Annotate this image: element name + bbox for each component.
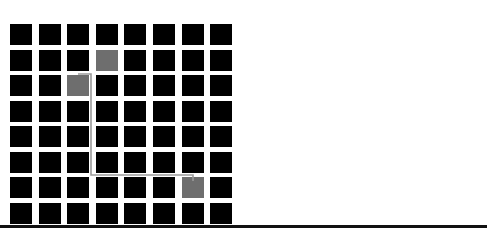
grid-cell bbox=[153, 75, 175, 96]
grid-cell bbox=[39, 203, 61, 224]
grid-cell bbox=[67, 24, 89, 45]
grid-cell bbox=[96, 101, 118, 122]
highlighted-cell bbox=[67, 75, 89, 96]
grid-cell bbox=[124, 101, 146, 122]
grid-cell bbox=[67, 126, 89, 147]
grid-cell bbox=[96, 152, 118, 173]
grid-cell bbox=[10, 101, 32, 122]
grid-cell bbox=[124, 126, 146, 147]
grid-cell bbox=[182, 75, 204, 96]
grid-cell bbox=[10, 24, 32, 45]
grid-cell bbox=[67, 101, 89, 122]
grid-cell bbox=[39, 50, 61, 71]
grid-cell bbox=[210, 177, 232, 198]
grid-cell bbox=[39, 101, 61, 122]
grid-cell bbox=[182, 152, 204, 173]
grid-cell bbox=[96, 126, 118, 147]
grid-cell bbox=[182, 126, 204, 147]
grid-cell bbox=[67, 50, 89, 71]
grid-cell bbox=[39, 177, 61, 198]
grid-cell bbox=[153, 50, 175, 71]
grid-cell bbox=[124, 177, 146, 198]
grid-cell bbox=[67, 177, 89, 198]
grid-cell bbox=[96, 177, 118, 198]
grid-cell bbox=[67, 203, 89, 224]
grid-cell bbox=[182, 203, 204, 224]
grid-cell bbox=[124, 24, 146, 45]
grid-cell bbox=[10, 126, 32, 147]
grid-cell bbox=[153, 24, 175, 45]
grid-cell bbox=[96, 203, 118, 224]
grid-cell bbox=[10, 152, 32, 173]
grid-cell bbox=[39, 126, 61, 147]
grid-cell bbox=[210, 75, 232, 96]
grid-cell bbox=[210, 152, 232, 173]
grid-cell bbox=[67, 152, 89, 173]
grid-cell bbox=[39, 75, 61, 96]
grid-cell bbox=[153, 126, 175, 147]
grid-cell bbox=[39, 24, 61, 45]
grid-cell bbox=[210, 24, 232, 45]
grid-cell bbox=[210, 203, 232, 224]
grid-cell bbox=[182, 24, 204, 45]
square-grid bbox=[0, 0, 487, 240]
grid-cell bbox=[124, 203, 146, 224]
grid-cell bbox=[96, 24, 118, 45]
highlighted-cell bbox=[182, 177, 204, 198]
grid-cell bbox=[124, 50, 146, 71]
grid-cell bbox=[10, 177, 32, 198]
grid-cell bbox=[124, 75, 146, 96]
highlighted-cell bbox=[96, 50, 118, 71]
grid-cell bbox=[153, 177, 175, 198]
grid-cell bbox=[153, 101, 175, 122]
grid-cell bbox=[182, 101, 204, 122]
grid-cell bbox=[153, 203, 175, 224]
grid-cell bbox=[96, 75, 118, 96]
grid-cell bbox=[10, 203, 32, 224]
baseline-rule bbox=[0, 225, 487, 228]
grid-cell bbox=[182, 50, 204, 71]
grid-cell bbox=[10, 75, 32, 96]
grid-cell bbox=[39, 152, 61, 173]
grid-cell bbox=[124, 152, 146, 173]
grid-cell bbox=[153, 152, 175, 173]
grid-cell bbox=[210, 50, 232, 71]
grid-cell bbox=[210, 126, 232, 147]
grid-cell bbox=[10, 50, 32, 71]
grid-cell bbox=[210, 101, 232, 122]
